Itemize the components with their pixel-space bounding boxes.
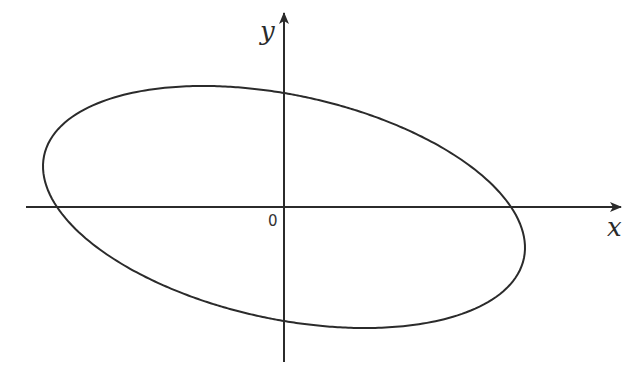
x-axis-label: x [607, 212, 622, 242]
ellipse-diagram: x y 0 [0, 0, 640, 385]
origin-label: 0 [268, 212, 278, 230]
y-axis-label: y [259, 16, 275, 46]
